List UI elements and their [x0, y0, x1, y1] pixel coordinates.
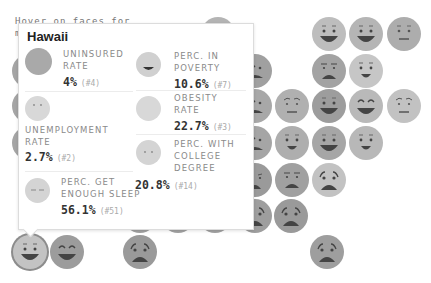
divider: [136, 90, 246, 91]
state-face[interactable]: [349, 17, 383, 51]
state-face[interactable]: [312, 54, 346, 88]
metric-rank: (#14): [174, 182, 198, 191]
metric-rank: (#2): [57, 154, 76, 163]
face-scared-icon: [123, 235, 157, 269]
metric-label: RATE: [63, 60, 124, 72]
state-face[interactable]: [123, 235, 157, 269]
metric-value: 4%: [63, 75, 77, 89]
state-face-selected[interactable]: [13, 235, 47, 269]
state-face[interactable]: [349, 89, 383, 123]
face-scared-icon: [312, 163, 346, 197]
face-happy-icon: [312, 17, 346, 51]
face-smile-icon: [349, 126, 383, 160]
state-face[interactable]: [387, 89, 421, 123]
tooltip-title: Hawaii: [27, 29, 68, 44]
face-smile-icon: [349, 54, 383, 88]
face-scared-icon: [310, 235, 344, 269]
face-worried-icon: [387, 89, 421, 123]
state-face[interactable]: [312, 126, 346, 160]
face-scared-icon: [274, 199, 308, 233]
face-happy-icon: [312, 126, 346, 160]
state-face[interactable]: [274, 199, 308, 233]
face-happy-icon: [312, 89, 346, 123]
metric-rank: (#7): [213, 81, 232, 90]
metric-rank: (#3): [213, 123, 232, 132]
face-happy-brow-icon: [349, 89, 383, 123]
metric-face-icon: [136, 52, 161, 77]
state-face[interactable]: [312, 17, 346, 51]
state-tooltip: Hawaii UNINSURED RATE 4%(#4) PERC. IN PO…: [18, 23, 254, 230]
metric-label: UNEMPLOYMENT: [25, 124, 109, 136]
state-face[interactable]: [50, 235, 84, 269]
face-grimace-icon: [312, 54, 346, 88]
metric-label: POVERTY: [174, 62, 220, 74]
face-happy-brow-icon: [50, 235, 84, 269]
state-face[interactable]: [312, 163, 346, 197]
state-face[interactable]: [275, 89, 309, 123]
metric-face-icon: [25, 178, 50, 203]
face-neutral-icon: [387, 17, 421, 51]
state-face[interactable]: [312, 89, 346, 123]
metric-rank: (#4): [81, 79, 100, 88]
metric-face-icon: [136, 140, 161, 165]
metric-label: RATE: [174, 104, 218, 116]
metric-label: UNINSURED: [63, 48, 124, 60]
metric-label: PERC. WITH: [174, 138, 235, 150]
divider: [25, 91, 133, 92]
face-worried-icon: [275, 89, 309, 123]
state-face[interactable]: [387, 17, 421, 51]
metric-value: 2.7%: [25, 150, 53, 164]
state-face[interactable]: [310, 235, 344, 269]
metric-label: OBESITY: [174, 92, 218, 104]
state-face[interactable]: [275, 163, 309, 197]
metric-label: PERC. IN: [174, 50, 220, 62]
metric-face-icon: [25, 96, 50, 121]
metric-label: ENOUGH SLEEP: [61, 188, 141, 200]
metric-label: DEGREE: [174, 162, 235, 174]
divider: [25, 171, 133, 172]
state-face[interactable]: [349, 126, 383, 160]
metric-face-icon: [25, 48, 52, 75]
metric-label: RATE: [25, 136, 109, 148]
face-smile-icon: [275, 126, 309, 160]
metric-value: 22.7%: [174, 119, 209, 133]
metric-face-icon: [136, 96, 161, 121]
face-happy-icon: [349, 17, 383, 51]
state-face[interactable]: [349, 54, 383, 88]
divider: [136, 134, 246, 135]
metric-rank: (#51): [100, 207, 124, 216]
metric-value: 56.1%: [61, 203, 96, 217]
metric-label: PERC. GET: [61, 176, 141, 188]
face-happy-icon: [13, 235, 47, 269]
metric-value: 10.6%: [174, 77, 209, 91]
metric-label: COLLEGE: [174, 150, 235, 162]
state-face[interactable]: [275, 126, 309, 160]
face-grimace-icon: [275, 163, 309, 197]
